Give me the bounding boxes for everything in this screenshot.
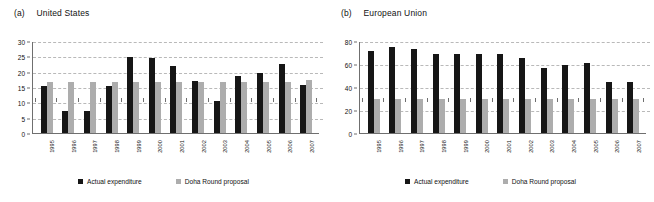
legend-item-doha-round-proposal: Doha Round proposal <box>503 178 576 185</box>
x-axis-tick-label: 2001 <box>179 140 185 153</box>
legend-swatch-actual-icon <box>78 179 83 184</box>
panel-b-bars <box>360 42 646 133</box>
x-axis-tick-label: 2002 <box>201 140 207 153</box>
panel-b-tag: (b) <box>341 8 361 18</box>
bar-group <box>144 42 166 133</box>
x-axis-tick-label: 2007 <box>309 140 315 153</box>
bar-doha <box>612 99 618 134</box>
bar-doha <box>285 82 291 133</box>
figure-two-panel-bar-charts: (a) United States 051015202530 199519961… <box>0 0 654 202</box>
y-axis-tick <box>27 103 30 104</box>
legend-swatch-doha-icon <box>176 179 181 184</box>
bar-group <box>230 42 252 133</box>
y-axis-tick-label: 60 <box>345 62 352 69</box>
x-axis-label-cell: 1996 <box>57 140 79 164</box>
y-axis-tick <box>354 65 357 66</box>
bar-doha <box>220 82 226 133</box>
bar-group <box>449 42 471 133</box>
panel-a-plot-area: 051015202530 <box>0 36 327 136</box>
bar-doha <box>306 80 312 133</box>
bar-doha <box>198 82 204 133</box>
x-axis-tick-label: 1995 <box>376 140 382 153</box>
bar-doha <box>90 82 96 133</box>
bar-doha <box>47 82 53 133</box>
x-axis-label-cell: 2001 <box>165 140 187 164</box>
bar-group <box>101 42 123 133</box>
panel-b-name: European Union <box>364 8 428 18</box>
bar-group <box>579 42 601 133</box>
panel-b-plot-area: 020406080 <box>327 36 654 136</box>
legend-swatch-actual-icon <box>405 179 410 184</box>
bar-group <box>274 42 296 133</box>
y-axis-tick-label: 15 <box>18 85 25 92</box>
x-axis-label-cell: 2001 <box>492 140 514 164</box>
bar-group <box>536 42 558 133</box>
bar-group <box>79 42 101 133</box>
bar-group <box>428 42 450 133</box>
x-axis-label-cell: 2000 <box>470 140 492 164</box>
x-axis-tick-label: 1999 <box>463 140 469 153</box>
bar-doha <box>590 99 596 133</box>
x-axis-tick-label: 2003 <box>549 140 555 153</box>
x-axis-tick-label: 2007 <box>636 140 642 153</box>
y-axis-tick <box>27 57 30 58</box>
x-axis-tick-label: 2005 <box>266 140 272 153</box>
x-axis-label-cell: 2005 <box>579 140 601 164</box>
y-axis-tick-label: 25 <box>18 54 25 61</box>
panel-a-y-axis: 051015202530 <box>0 42 30 134</box>
bar-doha <box>568 99 574 133</box>
x-axis-tick-label: 2002 <box>528 140 534 153</box>
x-axis-tick-label: 1998 <box>114 140 120 153</box>
x-axis-label-cell: 2002 <box>187 140 209 164</box>
y-axis-tick-label: 80 <box>345 39 352 46</box>
bar-doha <box>417 99 423 133</box>
panel-a-legend: Actual expenditure Doha Round proposal <box>0 178 327 185</box>
x-axis-tick-label: 2004 <box>571 140 577 153</box>
bar-doha <box>155 82 161 133</box>
x-axis-tick-label: 2004 <box>244 140 250 153</box>
panel-a-bars <box>33 42 319 133</box>
x-axis-tick-label: 2000 <box>484 140 490 153</box>
bar-group <box>363 42 385 133</box>
y-axis-tick <box>27 72 30 73</box>
panel-united-states: (a) United States 051015202530 199519961… <box>0 0 327 202</box>
panel-b-x-axis-labels: 1995199619971998199920002001200220032004… <box>359 140 646 164</box>
x-axis-label-cell: 1995 <box>362 140 384 164</box>
y-axis-tick-label: 5 <box>21 115 25 122</box>
y-axis-tick-label: 0 <box>348 131 352 138</box>
x-axis-label-cell: 1996 <box>384 140 406 164</box>
x-axis-tick-label: 2000 <box>157 140 163 153</box>
bar-group <box>58 42 80 133</box>
bar-doha <box>525 99 531 133</box>
x-axis-label-cell: 2000 <box>143 140 165 164</box>
bar-group <box>166 42 188 133</box>
x-axis-tick-label: 1997 <box>92 140 98 153</box>
bar-doha <box>112 82 118 133</box>
x-axis-tick-label: 1999 <box>136 140 142 153</box>
y-axis-tick-label: 40 <box>345 85 352 92</box>
x-axis-label-cell: 2004 <box>557 140 579 164</box>
panel-b-legend: Actual expenditure Doha Round proposal <box>327 178 654 185</box>
bar-group <box>209 42 231 133</box>
x-axis-label-cell: 2007 <box>622 140 644 164</box>
y-axis-tick <box>27 118 30 119</box>
x-axis-tick-label: 1997 <box>419 140 425 153</box>
x-axis-tick-label: 2006 <box>614 140 620 153</box>
y-axis-tick-label: 30 <box>18 39 25 46</box>
y-axis-tick-label: 20 <box>345 108 352 115</box>
bar-group <box>471 42 493 133</box>
y-axis-tick <box>354 111 357 112</box>
bar-doha <box>460 99 466 133</box>
legend-label-doha: Doha Round proposal <box>512 178 576 185</box>
bar-doha <box>133 82 139 133</box>
bar-doha <box>263 82 269 133</box>
panel-b-plot <box>359 42 646 134</box>
x-axis-tick-label: 1996 <box>398 140 404 153</box>
y-axis-tick-label: 0 <box>21 131 25 138</box>
x-axis-tick-label: 2005 <box>593 140 599 153</box>
y-axis-tick <box>27 42 30 43</box>
x-axis-label-cell: 1999 <box>122 140 144 164</box>
x-axis-label-cell: 2003 <box>536 140 558 164</box>
panel-european-union: (b) European Union 020406080 19951996199… <box>327 0 654 202</box>
panel-a-plot <box>32 42 319 134</box>
